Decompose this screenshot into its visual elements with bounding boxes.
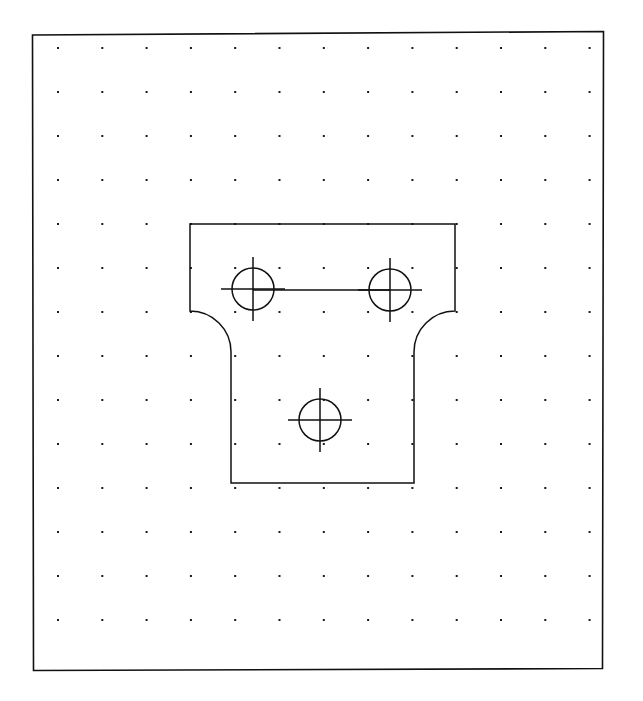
grid-dot-icon: [589, 311, 591, 313]
grid-dot-icon: [500, 311, 502, 313]
grid-dot-icon: [323, 443, 325, 445]
grid-dot-icon: [323, 619, 325, 621]
grid-dot-icon: [411, 399, 413, 401]
grid-dot-icon: [57, 443, 59, 445]
grid-dot-icon: [456, 135, 458, 137]
grid-dot-icon: [57, 179, 59, 181]
grid-dot-icon: [544, 531, 546, 533]
grid-dot-icon: [544, 443, 546, 445]
grid-dot-icon: [500, 135, 502, 137]
grid-dot-icon: [279, 619, 281, 621]
grid-dot-icon: [544, 267, 546, 269]
grid-dot-icon: [411, 267, 413, 269]
grid-dot-icon: [500, 487, 502, 489]
grid-dot-icon: [411, 47, 413, 49]
grid-dot-icon: [500, 619, 502, 621]
grid-dot-icon: [279, 135, 281, 137]
grid-dot-icon: [456, 223, 458, 225]
grid-dot-icon: [544, 91, 546, 93]
grid-dot-icon: [589, 355, 591, 357]
grid-dot-icon: [411, 619, 413, 621]
grid-dot-icon: [323, 47, 325, 49]
grid-dot-icon: [367, 135, 369, 137]
grid-dot-icon: [101, 355, 103, 357]
grid-dot-icon: [190, 47, 192, 49]
grid-dot-icon: [279, 355, 281, 357]
grid-dot-icon: [234, 47, 236, 49]
grid-dot-icon: [456, 531, 458, 533]
grid-dot-icon: [589, 575, 591, 577]
grid-dot-icon: [190, 619, 192, 621]
grid-dot-icon: [589, 223, 591, 225]
grid-dot-icon: [101, 267, 103, 269]
grid-dot-icon: [279, 91, 281, 93]
grid-dot-icon: [101, 91, 103, 93]
grid-dot-icon: [589, 531, 591, 533]
grid-dot-icon: [234, 487, 236, 489]
grid-dot-icon: [367, 179, 369, 181]
grid-dot-icon: [146, 311, 148, 313]
grid-dot-icon: [190, 399, 192, 401]
grid-dot-icon: [456, 399, 458, 401]
grid-dot-icon: [456, 443, 458, 445]
grid-dot-icon: [279, 531, 281, 533]
grid-dot-icon: [456, 575, 458, 577]
grid-dot-icon: [367, 399, 369, 401]
grid-dot-icon: [190, 355, 192, 357]
grid-dot-icon: [279, 179, 281, 181]
grid-dot-icon: [101, 135, 103, 137]
grid-dot-icon: [101, 443, 103, 445]
grid-dot-icon: [279, 575, 281, 577]
grid-dot-icon: [146, 443, 148, 445]
grid-dot-icon: [101, 575, 103, 577]
grid-dot-icon: [234, 355, 236, 357]
grid-dot-icon: [544, 135, 546, 137]
grid-dot-icon: [279, 443, 281, 445]
grid-dot-icon: [411, 355, 413, 357]
grid-dot-icon: [57, 223, 59, 225]
drawing-canvas[interactable]: [0, 0, 643, 701]
grid-dot-icon: [411, 91, 413, 93]
grid-dot-icon: [589, 267, 591, 269]
grid-dot-icon: [589, 91, 591, 93]
grid-dot-icon: [323, 575, 325, 577]
grid-dot-icon: [190, 135, 192, 137]
grid-dot-icon: [367, 355, 369, 357]
grid-dot-icon: [57, 135, 59, 137]
grid-dot-icon: [234, 531, 236, 533]
grid-dot-icon: [101, 531, 103, 533]
grid-dot-icon: [411, 487, 413, 489]
grid-dot-icon: [544, 223, 546, 225]
grid-dot-icon: [456, 487, 458, 489]
grid-dot-icon: [323, 355, 325, 357]
grid-dot-icon: [411, 135, 413, 137]
grid-dot-icon: [190, 575, 192, 577]
grid-dot-icon: [57, 311, 59, 313]
grid-dot-icon: [500, 443, 502, 445]
grid-dot-icon: [456, 91, 458, 93]
grid-dot-icon: [367, 487, 369, 489]
grid-dot-icon: [57, 399, 59, 401]
grid-dot-icon: [456, 311, 458, 313]
grid-dot-icon: [101, 487, 103, 489]
grid-dot-icon: [589, 619, 591, 621]
grid-dot-icon: [411, 575, 413, 577]
grid-dot-icon: [234, 399, 236, 401]
grid-dot-icon: [500, 399, 502, 401]
grid-dot-icon: [589, 399, 591, 401]
grid-dot-icon: [367, 311, 369, 313]
grid-dot-icon: [57, 47, 59, 49]
grid-dot-icon: [146, 531, 148, 533]
grid-dot-icon: [323, 311, 325, 313]
grid-dot-icon: [190, 91, 192, 93]
grid-dot-icon: [411, 531, 413, 533]
grid-dot-icon: [367, 619, 369, 621]
grid-dot-icon: [323, 135, 325, 137]
grid-dot-icon: [57, 355, 59, 357]
cad-drawing-page: Bracket Plate Sketch: [0, 0, 643, 701]
grid-dot-icon: [500, 223, 502, 225]
grid-dot-icon: [411, 443, 413, 445]
grid-dot-icon: [146, 575, 148, 577]
grid-dot-icon: [500, 355, 502, 357]
grid-dot-icon: [146, 91, 148, 93]
